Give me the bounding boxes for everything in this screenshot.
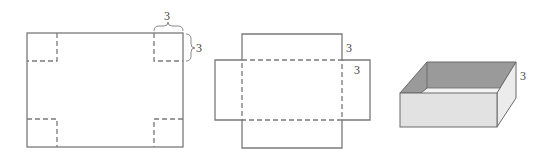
label-net-flap-3: 3 <box>354 63 360 77</box>
open-box-figure: 3 <box>400 62 526 127</box>
net-base-fold-lines <box>242 60 342 120</box>
corner-square-top-left <box>27 33 57 61</box>
net-figure: 3 3 <box>215 34 370 148</box>
brace-top <box>154 22 183 31</box>
diagram-canvas: 3 3 3 3 3 <box>0 0 550 158</box>
box-floor <box>421 88 500 93</box>
label-top-3: 3 <box>164 9 170 23</box>
brace-right <box>186 34 195 61</box>
label-box-height-3: 3 <box>520 69 526 83</box>
label-side-3: 3 <box>196 41 202 55</box>
corner-square-top-right <box>154 33 183 61</box>
corner-square-bottom-left <box>27 119 57 147</box>
corner-square-bottom-right <box>154 119 183 147</box>
box-front-face <box>400 93 497 127</box>
label-net-top-3: 3 <box>346 41 352 55</box>
sheet-outline <box>27 33 183 147</box>
flat-sheet-figure: 3 3 <box>27 9 202 147</box>
